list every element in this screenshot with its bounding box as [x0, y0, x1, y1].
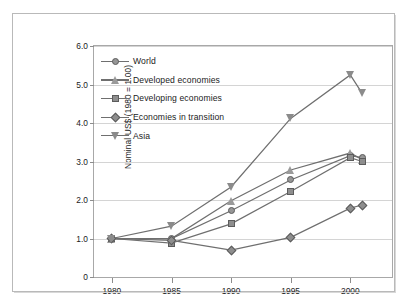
x-tick-label: 1990: [206, 286, 256, 296]
y-tick-label: 5.0: [48, 80, 88, 90]
legend-item[interactable]: Asia: [101, 126, 291, 145]
figure-border: Nominal US$ (1980 = 1.00) 01.02.03.04.05…: [12, 13, 395, 292]
y-tick-label: 0: [48, 272, 88, 282]
legend-marker-square-icon: [101, 91, 129, 105]
legend-label: Economies in transition: [129, 112, 224, 122]
legend-marker-triangle-up-icon: [101, 73, 129, 87]
chart-legend: WorldDeveloped economiesDeveloping econo…: [101, 52, 291, 145]
x-tick-mark: [112, 278, 113, 283]
legend-item[interactable]: Developed economies: [101, 71, 291, 90]
legend-label: Developing economies: [129, 93, 222, 103]
legend-marker-diamond-icon: [101, 110, 129, 124]
y-tick-label: 2.0: [48, 195, 88, 205]
y-tick-label: 4.0: [48, 118, 88, 128]
plot-area: Nominal US$ (1980 = 1.00) 01.02.03.04.05…: [93, 45, 393, 278]
legend-label: Developed economies: [129, 75, 220, 85]
x-tick-mark: [172, 278, 173, 283]
x-tick-mark: [291, 278, 292, 283]
legend-item[interactable]: Economies in transition: [101, 108, 291, 127]
legend-marker-triangle-down-icon: [101, 129, 129, 143]
y-tick-mark: [90, 277, 94, 278]
y-tick-label: 6.0: [48, 41, 88, 51]
x-tick-label: 1995: [266, 286, 316, 296]
y-tick-label: 3.0: [48, 157, 88, 167]
x-tick-mark: [350, 278, 351, 283]
legend-label: Asia: [129, 131, 150, 141]
x-tick-mark: [231, 278, 232, 283]
chart-figure: Nominal US$ (1980 = 1.00) 01.02.03.04.05…: [0, 0, 409, 305]
series-line: [112, 205, 362, 250]
x-tick-label: 1985: [147, 286, 197, 296]
y-tick-label: 1.0: [48, 234, 88, 244]
x-tick-label: 2000: [325, 286, 375, 296]
legend-item[interactable]: World: [101, 52, 291, 71]
x-tick-label: 1980: [87, 286, 137, 296]
legend-label: World: [129, 56, 156, 66]
legend-item[interactable]: Developing economies: [101, 89, 291, 108]
legend-marker-circle-icon: [101, 54, 129, 68]
